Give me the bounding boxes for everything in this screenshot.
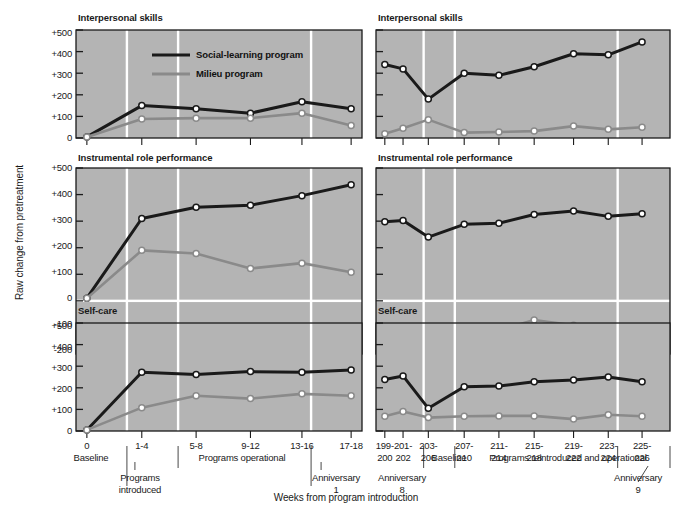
- legend-label-social-learning: Social-learning program: [196, 49, 303, 60]
- ytick-a-300: +300: [22, 69, 72, 80]
- panel-title-left-selfcare: Self-care: [78, 305, 117, 316]
- panel-right-interpersonal: [376, 30, 670, 145]
- ytick-a-100: +100: [22, 111, 72, 122]
- y-axis-title: Raw change from pretreatment: [14, 165, 25, 300]
- panel-left-selfcare: [76, 323, 362, 438]
- ytick-c-300: +300: [22, 362, 72, 373]
- ytick-c-200: +200: [22, 383, 72, 394]
- ytick-c-100: +100: [22, 404, 72, 415]
- ytick-b-500: +500: [22, 162, 72, 173]
- figure-root: Interpersonal skills Interpersonal skill…: [0, 0, 693, 514]
- xtick-left-selfcare-4: 13-16: [276, 440, 328, 451]
- ytick-c-400: +400: [22, 341, 72, 352]
- annot-programs-operational: Programs operational: [172, 452, 312, 463]
- ytick-b-300: +300: [22, 214, 72, 225]
- ytick-b-100: +100: [22, 266, 72, 277]
- panel-title-right-instrumental: Instrumental role performance: [378, 152, 512, 163]
- xtick-left-selfcare-3: 9-12: [224, 440, 276, 451]
- ytick-b-0: 0: [22, 292, 72, 303]
- ytick-a-0: 0: [22, 132, 72, 143]
- panel-title-left-instrumental: Instrumental role performance: [78, 152, 212, 163]
- ytick-a-500: +500: [22, 27, 72, 38]
- panel-title-left-interpersonal: Interpersonal skills: [78, 12, 163, 23]
- ytick-a-400: +400: [22, 48, 72, 59]
- ytick-c-500: +500: [22, 320, 72, 331]
- legend-label-milieu: Milieu program: [196, 68, 263, 79]
- xtick-left-selfcare-2: 5-8: [170, 440, 222, 451]
- xtick-left-selfcare-1: 1-4: [116, 440, 168, 451]
- annot-programs-introduced-line1: Programs: [100, 472, 180, 483]
- panel-title-right-interpersonal: Interpersonal skills: [378, 12, 463, 23]
- panel-title-right-selfcare: Self-care: [378, 305, 417, 316]
- panel-left-interpersonal: [76, 30, 362, 145]
- xtick-left-selfcare-0: 0: [61, 440, 113, 451]
- annot-anniversary8-line2: 8: [362, 484, 442, 495]
- ytick-c-0: 0: [22, 425, 72, 436]
- xtick-right-selfcare-8: 225-: [616, 440, 668, 451]
- panel-right-selfcare: [376, 323, 670, 438]
- ytick-a-200: +200: [22, 90, 72, 101]
- annot-anniversary9-line1: Anniversary: [598, 472, 678, 483]
- annot-anniversary8-line1: Anniversary: [362, 472, 442, 483]
- annot-anniversary9-line2: 9: [598, 484, 678, 495]
- ytick-b-400: +400: [22, 188, 72, 199]
- annot-baseline-left: Baseline: [60, 452, 122, 463]
- annot-programs-introduced-line2: introduced: [100, 484, 180, 495]
- chart-canvas: [0, 0, 693, 514]
- ytick-b-200: +200: [22, 240, 72, 251]
- xtick-right-selfcare-8-line2: 226: [616, 452, 668, 463]
